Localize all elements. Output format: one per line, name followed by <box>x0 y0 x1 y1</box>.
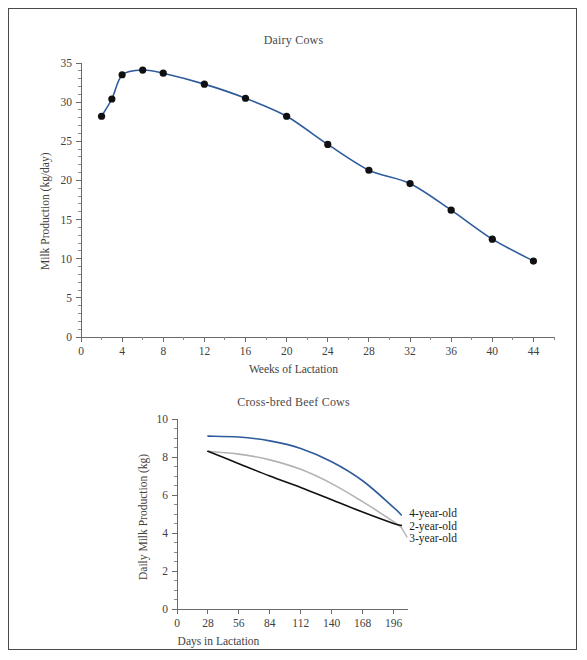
data-point-marker <box>139 66 146 73</box>
plot-area-beef-cows: 024681002856841121401681964-year-old2-ye… <box>9 387 578 647</box>
x-tick-label: 44 <box>528 345 540 357</box>
data-point-marker <box>489 236 496 243</box>
y-tick-label: 2 <box>162 565 168 577</box>
data-point-marker <box>365 167 372 174</box>
x-tick-label: 8 <box>160 345 166 357</box>
data-point-marker <box>448 207 455 214</box>
chart-dairy-cows: Dairy Cows Milk Production (kg/day) Week… <box>9 15 578 385</box>
data-point-marker <box>98 113 105 120</box>
data-point-marker <box>160 70 167 77</box>
x-tick-label: 28 <box>363 345 375 357</box>
y-tick-label: 0 <box>162 603 168 615</box>
y-tick-label: 30 <box>61 96 73 108</box>
y-tick-label: 4 <box>162 527 168 539</box>
data-line-milk-production <box>102 70 534 261</box>
x-tick-label: 56 <box>233 617 245 629</box>
y-tick-label: 20 <box>61 174 73 186</box>
data-line-4-year-old <box>208 436 401 515</box>
x-tick-label: 24 <box>322 345 334 357</box>
x-tick-label: 28 <box>202 617 214 629</box>
data-point-marker <box>108 95 115 102</box>
x-tick-label: 84 <box>264 617 276 629</box>
y-tick-label: 6 <box>162 489 168 501</box>
plot-area-dairy-cows: 05101520253035048121620242832364044 <box>9 15 578 385</box>
x-tick-label: 20 <box>281 345 293 357</box>
data-point-marker <box>324 141 331 148</box>
data-point-marker <box>242 95 249 102</box>
x-tick-label: 32 <box>404 345 416 357</box>
series-label-4-year-old: 4-year-old <box>409 507 457 520</box>
data-point-marker <box>201 81 208 88</box>
y-tick-label: 10 <box>61 253 73 265</box>
data-point-marker <box>119 71 126 78</box>
figure-frame: Dairy Cows Milk Production (kg/day) Week… <box>8 8 577 650</box>
x-tick-label: 0 <box>78 345 84 357</box>
x-tick-label: 112 <box>292 617 309 629</box>
x-tick-label: 40 <box>487 345 499 357</box>
x-tick-label: 12 <box>199 345 211 357</box>
series-label-3-year-old: 3-year-old <box>409 532 457 545</box>
y-tick-label: 5 <box>66 292 72 304</box>
chart-cross-bred-beef-cows: Cross-bred Beef Cows Daily Milk Producti… <box>9 387 578 647</box>
data-point-marker <box>283 113 290 120</box>
data-point-marker <box>406 180 413 187</box>
y-tick-label: 25 <box>61 135 73 147</box>
x-tick-label: 36 <box>445 345 457 357</box>
data-point-marker <box>530 257 537 264</box>
y-tick-label: 15 <box>61 214 73 226</box>
x-tick-label: 4 <box>119 345 125 357</box>
y-tick-label: 10 <box>157 413 169 425</box>
x-tick-label: 0 <box>174 617 180 629</box>
y-tick-label: 35 <box>61 57 73 69</box>
x-tick-label: 140 <box>323 617 341 629</box>
y-tick-label: 0 <box>66 331 72 343</box>
y-tick-label: 8 <box>162 451 168 463</box>
x-tick-label: 168 <box>354 617 372 629</box>
x-tick-label: 16 <box>240 345 252 357</box>
x-tick-label: 196 <box>385 617 403 629</box>
